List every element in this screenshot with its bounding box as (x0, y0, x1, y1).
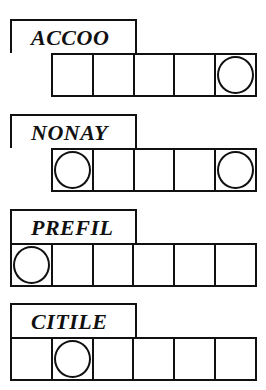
answer-cells (10, 243, 257, 287)
scrambled-word-box: CITILE (10, 303, 137, 337)
puzzle-1: ACCOO (0, 19, 266, 101)
letter-cell-3[interactable] (135, 55, 176, 95)
letter-cell-4[interactable] (134, 339, 175, 379)
letter-cell-5[interactable] (216, 55, 255, 95)
scrambled-word-box: NONAY (10, 114, 137, 148)
letter-cell-1[interactable] (53, 150, 94, 190)
scrambled-word: CITILE (31, 309, 107, 335)
letter-cell-6[interactable] (216, 339, 255, 379)
scrambled-word: ACCOO (31, 25, 109, 51)
letter-cell-1[interactable] (53, 55, 94, 95)
letter-cell-2[interactable] (94, 55, 135, 95)
letter-cell-5[interactable] (175, 245, 216, 285)
circle-marker-icon (54, 151, 91, 189)
letter-cell-4[interactable] (175, 55, 216, 95)
letter-cell-2[interactable] (53, 339, 94, 379)
letter-cell-5[interactable] (175, 339, 216, 379)
puzzle-3: PREFIL (0, 209, 266, 291)
answer-cells (51, 148, 257, 192)
letter-cell-4[interactable] (175, 150, 216, 190)
letter-cell-3[interactable] (135, 150, 176, 190)
answer-cells (51, 53, 257, 97)
scrambled-word: PREFIL (31, 215, 113, 241)
puzzle-2: NONAY (0, 114, 266, 196)
scrambled-word: NONAY (31, 120, 108, 146)
letter-cell-6[interactable] (216, 245, 255, 285)
letter-cell-1[interactable] (12, 339, 53, 379)
circle-marker-icon (13, 246, 50, 284)
letter-cell-5[interactable] (216, 150, 255, 190)
scrambled-word-box: PREFIL (10, 209, 137, 243)
circle-marker-icon (54, 340, 91, 378)
letter-cell-4[interactable] (134, 245, 175, 285)
answer-cells (10, 337, 257, 381)
circle-marker-icon (217, 151, 254, 189)
puzzle-4: CITILE (0, 303, 266, 385)
letter-cell-3[interactable] (94, 339, 135, 379)
scrambled-word-box: ACCOO (10, 19, 137, 53)
letter-cell-3[interactable] (94, 245, 135, 285)
circle-marker-icon (217, 56, 254, 94)
letter-cell-2[interactable] (94, 150, 135, 190)
letter-cell-2[interactable] (53, 245, 94, 285)
letter-cell-1[interactable] (12, 245, 53, 285)
